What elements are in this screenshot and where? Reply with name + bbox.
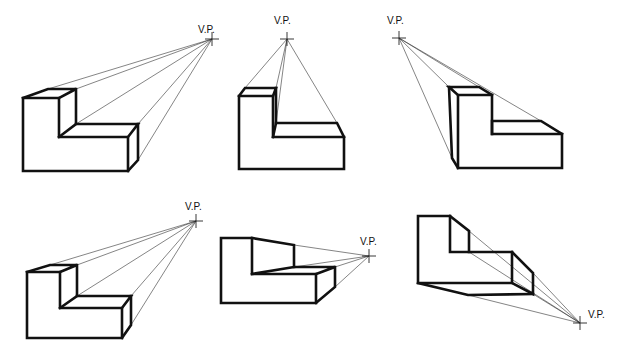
- vp-label: V.P.: [185, 201, 202, 212]
- l-block-edge: [458, 95, 562, 168]
- projection-line: [138, 39, 212, 124]
- projection-line: [294, 256, 369, 267]
- l-block-edge: [418, 216, 512, 283]
- perspective-diagram: V.P.V.P.V.P.V.P.V.P.V.P.: [0, 0, 626, 356]
- projection-line: [469, 252, 580, 323]
- l-block-edge: [23, 89, 76, 98]
- figure-5: V.P.: [221, 236, 377, 303]
- projection-line: [399, 38, 541, 121]
- l-block-edge: [512, 252, 533, 294]
- vp-label: V.P.: [198, 24, 215, 35]
- projection-line: [50, 221, 196, 265]
- l-block-edge: [76, 124, 138, 137]
- projection-line: [138, 39, 212, 160]
- figure-3: V.P.: [387, 15, 562, 168]
- vanishing-point-cross-icon: [189, 214, 203, 228]
- l-block-edge: [449, 87, 458, 168]
- vanishing-point-cross-icon: [362, 249, 376, 263]
- l-block-edge: [252, 238, 294, 267]
- vp-label: V.P.: [387, 15, 404, 26]
- l-block-edge: [27, 272, 122, 338]
- vp-label: V.P.: [360, 236, 377, 247]
- vanishing-point-cross-icon: [280, 32, 294, 46]
- l-block-edge: [276, 123, 344, 137]
- projection-line: [335, 256, 369, 287]
- l-block-edge: [77, 296, 131, 308]
- vp-label: V.P.: [588, 309, 605, 320]
- figure-6: V.P.: [418, 216, 605, 330]
- projection-line: [131, 221, 196, 325]
- projection-line: [335, 256, 369, 267]
- l-block-edge: [450, 216, 469, 252]
- projection-line: [399, 38, 452, 158]
- l-block-edge: [492, 121, 562, 134]
- projection-line: [287, 39, 337, 123]
- projection-line: [131, 221, 196, 296]
- figure-4: V.P.: [27, 201, 203, 338]
- l-block-edge: [239, 96, 344, 169]
- projection-line: [294, 245, 369, 256]
- figure-1: V.P.: [23, 24, 219, 171]
- figure-2: V.P.: [239, 15, 344, 169]
- vp-label: V.P.: [274, 15, 291, 26]
- projection-line: [48, 39, 212, 89]
- projection-line: [245, 39, 287, 88]
